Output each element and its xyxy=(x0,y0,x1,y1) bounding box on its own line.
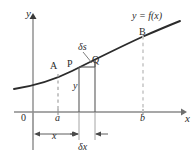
diagram-canvas xyxy=(0,0,195,156)
dimension-delta-x xyxy=(70,132,108,137)
arc-element-leader-line xyxy=(83,52,92,63)
x-tick-label-a: a xyxy=(55,113,60,123)
point-label-P: P xyxy=(67,59,73,69)
ordinate-label: y xyxy=(73,81,77,91)
x-tick-label-b: b xyxy=(140,113,145,123)
arc-element-label: δs xyxy=(78,42,87,52)
arc-length-diagram: y x 0 a b y = f(x) A B P Q δs y x δx xyxy=(0,0,195,156)
abscissa-dimension-label: x xyxy=(52,131,56,141)
dimension-extension-lines xyxy=(33,112,95,140)
point-label-Q: Q xyxy=(92,55,99,65)
dimension-dx-arrow-right xyxy=(95,132,101,137)
origin-label: 0 xyxy=(21,113,26,123)
dimension-dx-arrow-left xyxy=(73,132,79,137)
x-axis-label: x xyxy=(185,113,190,124)
dimension-x-arrow-left xyxy=(34,132,40,137)
ordinate-lines xyxy=(79,60,95,112)
curve-equation-label: y = f(x) xyxy=(132,11,162,21)
y-axis-label: y xyxy=(26,8,31,19)
point-label-B: B xyxy=(139,27,146,37)
x-increment-dimension-label: δx xyxy=(78,142,87,152)
axes-group xyxy=(14,13,187,150)
point-label-A: A xyxy=(50,61,57,71)
